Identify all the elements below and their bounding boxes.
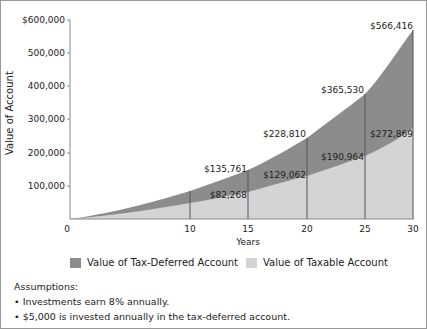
- y-tick: 400,000: [28, 81, 65, 91]
- area-chart: $600,000 500,000 400,000 300,000 200,000…: [0, 0, 427, 260]
- y-tick: 500,000: [28, 48, 65, 58]
- x-tick: 15: [242, 224, 253, 234]
- swatch-taxable: [246, 258, 257, 268]
- annotation: $129,062: [263, 170, 306, 180]
- x-tick: 20: [301, 224, 313, 234]
- annotation: $566,416: [370, 21, 413, 31]
- annotation: $272,869: [370, 129, 413, 139]
- assumptions: Assumptions: Investments earn 8% annuall…: [14, 279, 290, 324]
- legend-label: Value of Taxable Account: [263, 257, 388, 268]
- y-tick: 300,000: [28, 114, 65, 124]
- x-axis-label: Years: [235, 237, 260, 247]
- x-tick: 25: [359, 224, 370, 234]
- assumptions-title: Assumptions:: [14, 279, 290, 294]
- swatch-deferred: [70, 258, 81, 268]
- y-tick: 200,000: [28, 148, 65, 158]
- annotation: $228,810: [263, 129, 306, 139]
- x-tick: 10: [184, 224, 196, 234]
- x-tick: 30: [407, 224, 419, 234]
- assumption-item: $5,000 is invested annually in the tax-d…: [14, 309, 290, 324]
- annotation: $190,964: [321, 152, 364, 162]
- annotation: $135,761: [204, 164, 247, 174]
- legend-item-taxable: Value of Taxable Account: [246, 257, 388, 268]
- legend-label: Value of Tax-Deferred Account: [87, 257, 238, 268]
- y-tick: 100,000: [28, 181, 65, 191]
- y-axis-label: Value of Account: [4, 71, 15, 155]
- assumption-item: Investments earn 8% annually.: [14, 294, 290, 309]
- annotation: $82,268: [210, 190, 247, 200]
- x-tick: 0: [64, 224, 70, 234]
- y-tick: $600,000: [22, 15, 65, 25]
- legend-item-deferred: Value of Tax-Deferred Account: [70, 257, 238, 268]
- annotation: $365,530: [321, 85, 364, 95]
